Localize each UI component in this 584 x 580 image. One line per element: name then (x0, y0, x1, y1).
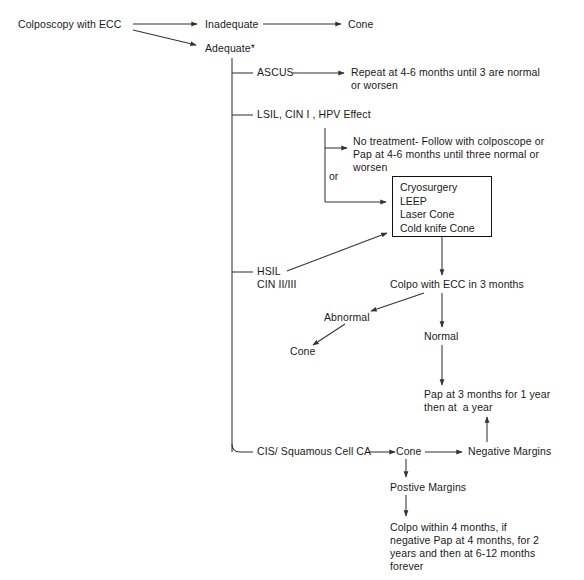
edge-hsil-to-treatment-box (287, 233, 387, 271)
node-cis: CIS/ Squamous Cell CA (257, 445, 371, 459)
node-lsil: LSIL, CIN I , HPV Effect (257, 108, 371, 122)
edge-start-to-adequate (133, 30, 196, 45)
node-ascus-followup-line2: or worsen (351, 79, 398, 93)
node-lsil-notreatment-line3: worsen (353, 161, 387, 175)
node-lsil-notreatment-line1: No treatment- Follow with colposcope or (353, 135, 544, 149)
node-positive-margins: Postive Margins (390, 481, 466, 495)
node-colpo-ecc-3months: Colpo with ECC in 3 months (390, 278, 524, 292)
node-abnormal-cone: Cone (290, 345, 316, 359)
node-positive-followup-line2: negative Pap at 4 months, for 2 (390, 534, 539, 548)
edge-colpo-to-abnormal (371, 293, 424, 311)
node-inadequate-cone: Cone (348, 18, 374, 32)
node-positive-followup-line1: Colpo within 4 months, if (390, 521, 507, 535)
edge-abnormal-to-cone (313, 324, 345, 345)
flowchart-canvas: Colposcopy with ECC Inadequate Cone Adeq… (0, 0, 584, 580)
tick-cis (232, 444, 253, 452)
node-ascus-followup-line1: Repeat at 4-6 months until 3 are normal (351, 66, 540, 80)
node-positive-followup-line3: years and then at 6-12 months (390, 547, 535, 561)
node-ascus: ASCUS (257, 66, 294, 80)
node-start: Colposcopy with ECC (18, 18, 121, 32)
treatment-options-list: Cryosurgery LEEP Laser Cone Cold knife C… (400, 181, 475, 235)
node-negative-margins: Negative Margins (468, 445, 551, 459)
node-inadequate: Inadequate (205, 18, 259, 32)
node-adequate: Adequate* (205, 42, 255, 56)
node-positive-followup-line4: forever (390, 560, 423, 574)
node-abnormal: Abnormal (324, 311, 370, 325)
node-lsil-notreatment-line2: Pap at 4-6 months until three normal or (353, 148, 539, 162)
node-normal: Normal (424, 330, 458, 344)
label-or: or (329, 170, 338, 183)
node-pap-followup-line2: then at a year (424, 401, 493, 415)
node-pap-followup-line1: Pap at 3 months for 1 year (424, 388, 550, 402)
node-hsil-line1: HSIL (257, 265, 281, 279)
node-hsil-line2: CIN II/III (257, 278, 297, 292)
treatment-options-box: Cryosurgery LEEP Laser Cone Cold knife C… (392, 176, 492, 237)
node-cis-cone: Cone (396, 445, 422, 459)
